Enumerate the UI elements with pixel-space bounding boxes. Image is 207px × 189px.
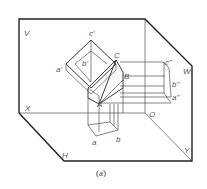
point-label-b: B xyxy=(124,72,130,81)
h-projection xyxy=(88,88,123,136)
point-label-c-prime: c' xyxy=(89,29,95,38)
axis-label-x: X xyxy=(24,104,31,113)
point-label-b-dprime: b" xyxy=(172,80,180,89)
figure-caption: (a) xyxy=(96,168,106,178)
plane-label-w: W xyxy=(183,67,192,76)
prism-object xyxy=(88,60,123,104)
point-label-b-lower: b xyxy=(116,135,121,144)
plane-label-v: V xyxy=(24,29,30,38)
projection-frame xyxy=(19,19,192,161)
point-label-c: C xyxy=(114,51,120,60)
axis-label-y: Y xyxy=(184,146,190,155)
projection-diagram: V W H X Y O c' a' b' C B A c" b" a" a b … xyxy=(0,0,207,189)
point-label-a-prime: a' xyxy=(56,65,62,74)
point-label-a-lower: a xyxy=(92,138,97,147)
plane-label-h: H xyxy=(62,151,68,160)
axis-label-o: O xyxy=(149,110,155,119)
point-label-a-dprime: a" xyxy=(172,93,180,102)
point-label-c-dprime: c" xyxy=(165,58,173,67)
point-label-b-prime: b' xyxy=(82,59,88,68)
point-label-a: A xyxy=(96,100,102,109)
